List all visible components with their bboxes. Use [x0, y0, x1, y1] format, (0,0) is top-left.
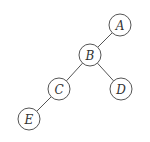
tree-diagram: A B C D E [0, 0, 150, 142]
node-c: C [48, 78, 70, 100]
edges-group [37, 33, 114, 111]
node-d: D [110, 78, 132, 100]
node-c-label: C [54, 83, 63, 97]
node-b: B [79, 44, 101, 66]
edge-a-b [98, 33, 112, 47]
node-e: E [18, 108, 40, 130]
node-a: A [109, 14, 131, 36]
node-a-label: A [115, 19, 125, 33]
edge-c-e [37, 97, 51, 111]
edge-b-c [66, 63, 82, 81]
node-b-label: B [85, 49, 95, 63]
edge-b-d [97, 63, 113, 81]
node-d-label: D [115, 83, 126, 97]
node-e-label: E [24, 113, 34, 127]
